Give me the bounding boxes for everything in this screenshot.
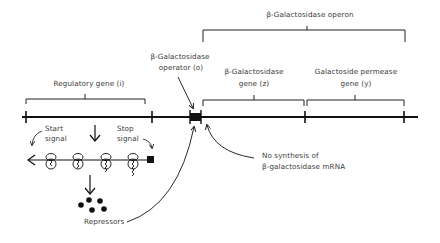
operator-pointer-arrow bbox=[178, 77, 193, 108]
lac-operon-diagram bbox=[0, 0, 440, 243]
y-gene-bracket bbox=[307, 95, 404, 106]
y-gene-label-line1: Galactoside permease bbox=[306, 67, 406, 77]
dna-strand bbox=[22, 111, 418, 123]
operator-block bbox=[190, 110, 201, 124]
no-synthesis-label-line1: No synthesis of bbox=[262, 151, 319, 161]
regulatory-gene-bracket bbox=[26, 94, 145, 104]
transcription-arrow bbox=[90, 125, 100, 141]
repressor-molecules bbox=[78, 197, 107, 213]
z-gene-bracket bbox=[203, 95, 304, 106]
y-gene-label-line2: gene (y) bbox=[326, 79, 386, 89]
operator-label-line1: β-Galactosidase bbox=[140, 52, 220, 62]
stop-signal-label-line2: signal bbox=[117, 134, 139, 144]
operon-label: β-Galactosidase operon bbox=[240, 10, 380, 20]
stop-codon-marker bbox=[147, 156, 154, 163]
operator-label-line2: operator (o) bbox=[146, 63, 216, 73]
start-signal-label-line2: signal bbox=[45, 134, 67, 144]
repressors-label: Repressors bbox=[84, 217, 124, 227]
start-signal-arrow bbox=[32, 131, 42, 145]
z-gene-label-line1: β-Galactosidase bbox=[214, 67, 294, 77]
stop-signal-arrow bbox=[143, 139, 152, 148]
operon-bracket bbox=[203, 26, 405, 42]
stop-signal-label-line1: Stop bbox=[117, 124, 134, 134]
ribosome bbox=[128, 154, 138, 177]
regulatory-gene-label: Regulatory gene (i) bbox=[44, 79, 134, 89]
no-synthesis-label-line2: β-galactosidase mRNA bbox=[262, 162, 345, 172]
z-gene-label-line2: gene (z) bbox=[224, 79, 284, 89]
start-signal-label-line1: Start bbox=[45, 124, 63, 134]
ribosome bbox=[46, 154, 56, 170]
no-synthesis-arrow bbox=[207, 125, 254, 158]
ribosome bbox=[101, 154, 111, 173]
translation-arrow bbox=[85, 175, 95, 194]
ribosome bbox=[73, 154, 83, 170]
